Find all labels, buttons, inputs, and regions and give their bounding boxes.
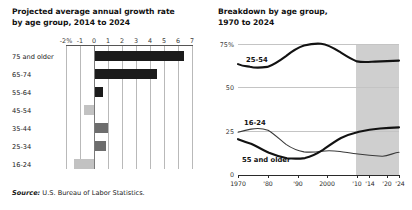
line-series-svg — [206, 0, 412, 210]
source-note: Source: U.S. Bureau of Labor Statistics. — [12, 189, 145, 197]
bar-chart-plot: -2% -1 0 1 2 3 4 5 6 7 75 and older — [0, 0, 206, 210]
line-chart-panel: Breakdown by age group, 1970 to 2024 75%… — [206, 0, 412, 210]
bar-gridline-3 — [136, 45, 137, 169]
bar-gridline-2 — [122, 45, 123, 169]
series-label-55-and-older: 55 and older — [242, 156, 290, 164]
bar-65-74 — [95, 69, 157, 79]
bar-35-44 — [95, 123, 108, 133]
bar-gridline-5 — [164, 45, 165, 169]
infographic-page: Projected average annual growth rate by … — [0, 0, 412, 210]
bar-45-54 — [84, 105, 94, 115]
bar-gridline-1 — [108, 45, 109, 169]
series-label-25-54: 25-54 — [246, 56, 268, 64]
line-chart-plot: 75% 50 25 0 1970 '80 '90 2000 '10 '14 '2… — [206, 0, 412, 210]
bar-gridline-4 — [150, 45, 151, 169]
bar-row-label-55-64: 55-64 — [12, 88, 31, 98]
bar-row-label-45-54: 45-54 — [12, 106, 31, 116]
series-label-16-24: 16-24 — [244, 119, 266, 127]
bar-row-label-16-24: 16-24 — [12, 160, 31, 170]
bar-gridline-6 — [178, 45, 179, 169]
bar-75-and-older — [95, 51, 184, 61]
bar-16-24 — [74, 159, 94, 169]
bar-gridline--2 — [66, 45, 67, 169]
series-path-55-and-older — [238, 127, 399, 158]
bar-row-label-25-34: 25-34 — [12, 142, 31, 152]
bar-row-label-75-and-older: 75 and older — [12, 52, 54, 62]
bar-xtick-label-9: 7 — [184, 37, 200, 45]
bar-row-label-35-44: 35-44 — [12, 124, 31, 134]
bar-55-64 — [95, 87, 103, 97]
bar-25-34 — [95, 141, 106, 151]
bar-axis-tickbar — [66, 45, 193, 46]
bar-gridline-7 — [192, 45, 193, 169]
source-text: U.S. Bureau of Labor Statistics. — [40, 189, 144, 197]
source-label: Source: — [12, 189, 40, 197]
bar-chart-panel: Projected average annual growth rate by … — [0, 0, 206, 210]
bar-row-label-65-74: 65-74 — [12, 70, 31, 80]
bar-gridline--1 — [80, 45, 81, 169]
